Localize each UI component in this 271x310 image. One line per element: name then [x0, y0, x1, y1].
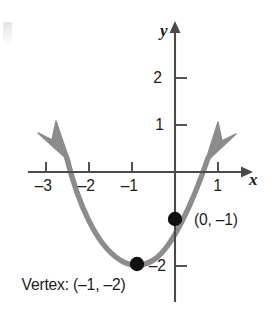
y-tick-label-minus-2: –2	[149, 257, 166, 274]
point-marker-vertex	[130, 257, 144, 271]
parabola-plot	[0, 0, 271, 310]
y-axis-arrow-icon	[170, 21, 181, 33]
y-intercept-annotation: (0, –1)	[194, 211, 238, 228]
y-tick-label-1: 1	[155, 116, 164, 133]
x-axis-label: x	[249, 171, 257, 188]
point-marker-y-intercept	[168, 212, 182, 226]
vertex-annotation: Vertex: (–1, –2)	[22, 276, 126, 293]
parabola-figure: y x 2 1 –2 –3 –2 –1 1 (0, –1) Vertex: (–…	[0, 0, 271, 310]
parabola-curve	[67, 157, 208, 265]
y-tick-label-2: 2	[153, 69, 162, 86]
x-tick-label-minus-1: –1	[121, 177, 138, 194]
y-axis-label: y	[160, 22, 167, 39]
curve-right-arrow-icon	[205, 122, 236, 163]
curve-left-arrow-icon	[38, 121, 70, 162]
x-tick-label-minus-2: –2	[78, 177, 95, 194]
y-axis	[170, 21, 181, 302]
x-tick-label-1: 1	[213, 177, 222, 194]
x-tick-label-minus-3: –3	[35, 177, 52, 194]
